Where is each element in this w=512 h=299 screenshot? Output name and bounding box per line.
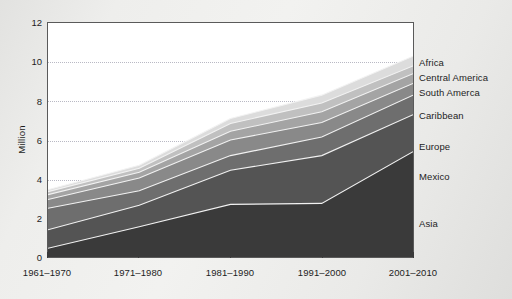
legend-item-asia[interactable]: Asia (419, 218, 438, 229)
plot-area (47, 22, 414, 258)
y-tick-text: 4 (37, 174, 42, 185)
x-tick-label-1991-2000: 1991–2000 (284, 267, 360, 278)
legend-item-africa[interactable]: Africa (419, 57, 444, 68)
stacked-area-chart-figure: Million 12 10 8 6 4 2 0 1961–1970 1971–1… (0, 0, 512, 299)
y-tick-text: 6 (37, 135, 42, 146)
x-tick-mark-1961-1970 (47, 252, 48, 258)
stacked-area-series-group (48, 23, 413, 257)
y-tick-text: 10 (31, 56, 42, 67)
x-tick-mark-2001-2010 (413, 252, 414, 258)
y-tick-label-10: 10 (0, 56, 42, 67)
y-tick-label-4: 4 (0, 174, 42, 185)
legend-item-europe[interactable]: Europe (419, 141, 450, 152)
y-tick-text: 12 (31, 17, 42, 28)
x-tick-mark-1991-2000 (322, 252, 323, 258)
y-tick-label-12: 12 (0, 17, 42, 28)
x-tick-mark-1981-1990 (230, 252, 231, 258)
legend-item-south-amerca[interactable]: South Amerca (419, 87, 480, 98)
y-tick-text: 8 (37, 96, 42, 107)
y-tick-text: 0 (37, 252, 42, 263)
y-tick-label-2: 2 (0, 213, 42, 224)
legend-item-mexico[interactable]: Mexico (419, 171, 450, 182)
y-tick-label-0: 0 (0, 252, 42, 263)
x-tick-label-1961-1970: 1961–1970 (9, 267, 85, 278)
x-tick-label-1981-1990: 1981–1990 (192, 267, 268, 278)
legend-item-caribbean[interactable]: Caribbean (419, 110, 464, 121)
x-tick-mark-1971-1980 (138, 252, 139, 258)
x-tick-label-1971-1980: 1971–1980 (100, 267, 176, 278)
x-tick-label-2001-2010: 2001–2010 (375, 267, 451, 278)
y-tick-text: 2 (37, 213, 42, 224)
legend-item-central-america[interactable]: Central America (419, 72, 488, 83)
y-tick-label-8: 8 (0, 96, 42, 107)
y-tick-label-6: 6 (0, 135, 42, 146)
